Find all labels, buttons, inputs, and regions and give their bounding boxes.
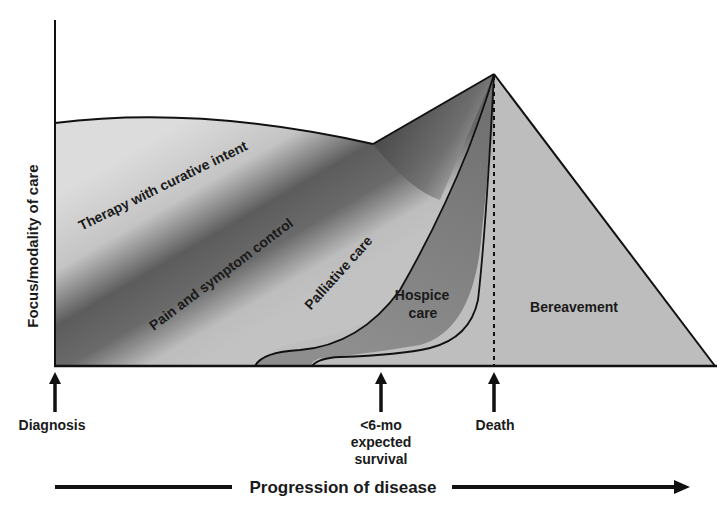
death-arrow xyxy=(488,372,500,412)
progression-label: Progression of disease xyxy=(249,478,436,497)
diagnosis-label: Diagnosis xyxy=(19,417,86,433)
y-axis-label: Focus/modality of care xyxy=(24,164,41,327)
hospice-care-label-2: care xyxy=(409,305,438,321)
diagnosis-arrow xyxy=(49,372,61,412)
six-month-label-1: <6-mo xyxy=(360,417,402,433)
hospice-care-label-1: Hospice xyxy=(395,287,450,303)
care-continuum-diagram: Focus/modality of care Therapy with cura… xyxy=(0,0,726,507)
six-month-arrow xyxy=(375,372,387,412)
six-month-label-3: survival xyxy=(355,451,408,467)
six-month-label-2: expected xyxy=(351,434,412,450)
death-label: Death xyxy=(476,417,515,433)
bereavement-label: Bereavement xyxy=(530,299,618,315)
progression-arrowhead xyxy=(674,480,690,494)
